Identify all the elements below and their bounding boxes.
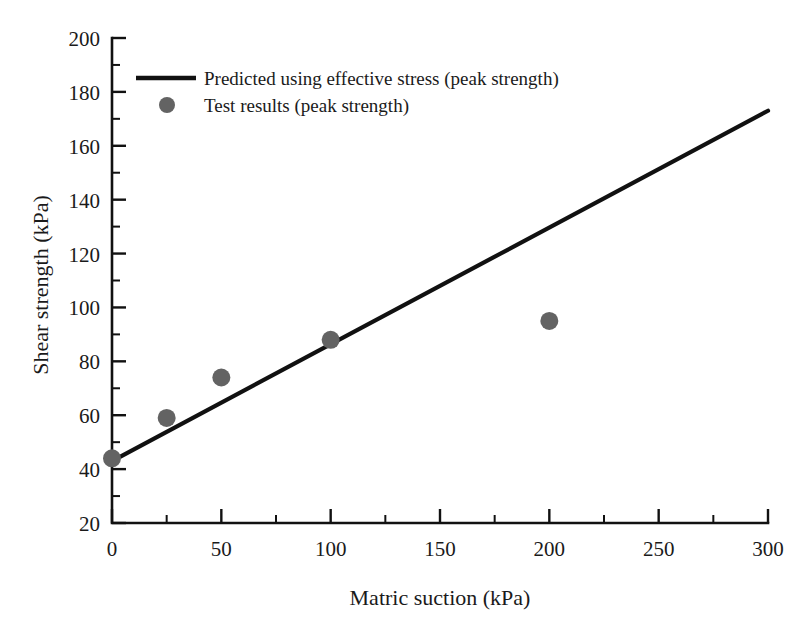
x-tick-label: 200 xyxy=(534,537,566,561)
x-tick-label: 250 xyxy=(643,537,675,561)
x-tick-label: 300 xyxy=(752,537,784,561)
x-tick-label: 100 xyxy=(315,537,347,561)
y-tick-label: 160 xyxy=(69,135,101,159)
data-point xyxy=(103,449,121,467)
x-axis-title: Matric suction (kPa) xyxy=(350,585,531,610)
y-tick-label: 180 xyxy=(69,81,101,105)
data-point xyxy=(212,369,230,387)
legend-marker-swatch xyxy=(159,97,175,113)
x-tick-label: 150 xyxy=(424,537,456,561)
chart-canvas: 20406080100120140160180200 0501001502002… xyxy=(0,0,808,635)
y-tick-label: 120 xyxy=(69,243,101,267)
y-tick-label: 100 xyxy=(69,296,101,320)
y-tick-label: 40 xyxy=(79,458,100,482)
x-tick-label: 0 xyxy=(107,537,118,561)
figure-container: 20406080100120140160180200 0501001502002… xyxy=(0,0,808,635)
x-tick-label: 50 xyxy=(211,537,232,561)
data-point xyxy=(540,312,558,330)
y-tick-label: 20 xyxy=(79,512,100,536)
y-axis-title: Shear strength (kPa) xyxy=(28,195,53,375)
legend-label-predicted: Predicted using effective stress (peak s… xyxy=(204,68,559,90)
data-point xyxy=(322,331,340,349)
y-tick-label: 80 xyxy=(79,350,100,374)
legend-label-test-results: Test results (peak strength) xyxy=(204,95,409,117)
y-tick-label: 140 xyxy=(69,189,101,213)
data-point xyxy=(158,409,176,427)
y-tick-label: 200 xyxy=(69,27,101,51)
y-tick-label: 60 xyxy=(79,404,100,428)
